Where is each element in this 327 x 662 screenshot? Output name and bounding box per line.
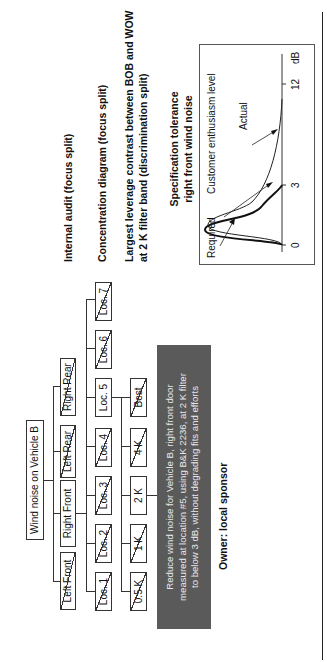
- node-label: Loc. 2: [99, 530, 109, 557]
- tree-node-loc-2: Loc. 2: [95, 524, 112, 563]
- chart-label-actual: Actual: [238, 102, 249, 130]
- node-label: Best: [134, 388, 144, 408]
- tree-node-loc-1: Loc. 1: [95, 572, 112, 611]
- problem-statement-line: measured at location #5, using B&K 2236,…: [177, 351, 190, 623]
- tree-node-right-front: Right Front: [60, 480, 76, 547]
- node-label: Right Front: [63, 489, 73, 538]
- annotation-concentration-diagram: Concentration diagram (focus split): [96, 85, 110, 262]
- connector: [86, 495, 95, 496]
- node-label: 1 K: [134, 536, 144, 551]
- node-label: Loc. 1: [99, 578, 109, 605]
- tree-node-left-front: Left Front: [60, 552, 76, 610]
- node-label: Loc. 5: [99, 384, 109, 411]
- tree-root-label: Wind noise on Vehicle B: [30, 426, 40, 534]
- connector: [53, 513, 60, 514]
- node-label: Left Front: [63, 560, 73, 603]
- owner-label: Owner: local sponsor: [217, 463, 229, 570]
- connector: [76, 513, 86, 514]
- connector: [121, 591, 130, 592]
- connector: [121, 397, 130, 398]
- connector: [86, 543, 95, 544]
- tree-node-2k: 2 K: [130, 476, 147, 515]
- node-label: Loc. 3: [99, 482, 109, 509]
- tree-node-best: Best: [130, 378, 147, 417]
- chart-label-required: Required: [206, 217, 217, 258]
- tree-node-right-rear: Right Rear: [60, 358, 76, 416]
- connector: [44, 480, 53, 481]
- connector: [121, 543, 130, 544]
- connector: [53, 386, 54, 582]
- connector: [53, 581, 60, 582]
- node-label: Loc. 6: [99, 336, 109, 363]
- tree-node-0-5k: 0.5 K: [130, 572, 147, 611]
- chart-tick-3: 3: [290, 182, 301, 188]
- tree-root-box: Wind noise on Vehicle B: [26, 420, 44, 540]
- connector: [86, 348, 95, 349]
- problem-statement-line: to below 3 dB, without degrading fits an…: [189, 351, 202, 623]
- node-label: Left Rear: [63, 431, 73, 472]
- spec-tolerance-chart: Required Customer enthusiasm level Actua…: [199, 44, 315, 265]
- node-label: 4 K: [134, 440, 144, 455]
- node-label: 2 K: [134, 488, 144, 503]
- problem-statement-line: Reduce wind noise for Vehicle B, right f…: [164, 351, 177, 623]
- node-label: Loc. 4: [99, 434, 109, 461]
- tree-node-loc-6: Loc. 6: [95, 330, 112, 369]
- connector: [86, 446, 95, 447]
- annotation-leverage-line2: at 2 K filter band (discrimination split…: [137, 74, 151, 262]
- chart-tick-0: 0: [290, 242, 301, 248]
- connector: [86, 299, 95, 300]
- chart-unit-label: dB: [290, 52, 301, 64]
- connector: [121, 495, 130, 496]
- tree-node-left-rear: Left Rear: [60, 425, 76, 478]
- spec-title-line1: Specification tolerance: [168, 84, 182, 214]
- node-label: 0.5 K: [134, 580, 144, 603]
- annotation-leverage-line1: Largest leverage contrast between BOB an…: [123, 11, 137, 262]
- diagram-canvas: Wind noise on Vehicle B Left Front Right…: [0, 0, 327, 662]
- chart-svg: [200, 43, 316, 264]
- tree-node-loc-5: Loc. 5: [95, 378, 112, 417]
- node-label: Right Rear: [63, 363, 73, 411]
- tree-node-loc-4: Loc. 4: [95, 428, 112, 467]
- connector: [53, 386, 60, 387]
- connector: [112, 397, 121, 398]
- annotation-internal-audit: Internal audit (focus split): [62, 134, 76, 262]
- problem-statement-box: Reduce wind noise for Vehicle B, right f…: [157, 345, 211, 629]
- spec-title-line2: right front wind noise: [182, 84, 196, 214]
- connector: [86, 591, 95, 592]
- page-rule: [322, 12, 323, 660]
- tree-node-loc-7: Loc. 7: [95, 282, 112, 321]
- chart-label-customer-enthusiasm: Customer enthusiasm level: [206, 73, 217, 194]
- tree-node-4k: 4 K: [130, 428, 147, 467]
- tree-node-1k: 1 K: [130, 524, 147, 563]
- node-label: Loc. 7: [99, 288, 109, 315]
- tree-node-loc-3: Loc. 3: [95, 476, 112, 515]
- connector: [86, 397, 95, 398]
- connector: [53, 451, 60, 452]
- connector: [147, 495, 157, 496]
- chart-tick-12: 12: [290, 79, 301, 90]
- connector: [121, 446, 130, 447]
